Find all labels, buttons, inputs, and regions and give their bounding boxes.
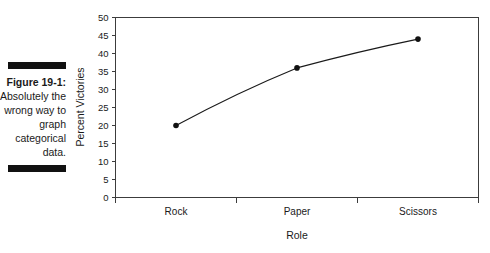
y-tick-label: 15 bbox=[98, 138, 109, 149]
x-axis-category-labels: RockPaperScissors bbox=[165, 206, 437, 217]
x-axis bbox=[116, 198, 479, 203]
line-chart: 05101520253035404550 RockPaperScissors R… bbox=[0, 0, 490, 253]
y-tick-label: 50 bbox=[98, 12, 109, 23]
series-line-path bbox=[176, 39, 418, 125]
y-tick-label: 10 bbox=[98, 156, 109, 167]
data-point-marker bbox=[294, 65, 300, 71]
y-tick-label: 40 bbox=[98, 48, 109, 59]
y-tick-label: 0 bbox=[103, 192, 108, 203]
data-point-marker bbox=[415, 36, 421, 42]
plot-frame bbox=[116, 18, 479, 198]
y-tick-label: 5 bbox=[103, 174, 108, 185]
x-tick-label: Scissors bbox=[399, 206, 437, 217]
y-tick-label: 45 bbox=[98, 30, 109, 41]
x-axis-title: Role bbox=[286, 229, 308, 241]
data-point-marker bbox=[173, 123, 179, 129]
y-axis-title: Percent Victories bbox=[74, 67, 86, 146]
x-tick-label: Rock bbox=[165, 206, 189, 217]
y-axis: 05101520253035404550 bbox=[98, 12, 116, 203]
x-tick-label: Paper bbox=[284, 206, 311, 217]
data-series bbox=[173, 36, 421, 128]
y-tick-label: 30 bbox=[98, 84, 109, 95]
y-tick-label: 35 bbox=[98, 66, 109, 77]
chart-figure: 05101520253035404550 RockPaperScissors R… bbox=[0, 0, 490, 253]
y-tick-label: 25 bbox=[98, 102, 109, 113]
y-tick-label: 20 bbox=[98, 120, 109, 131]
